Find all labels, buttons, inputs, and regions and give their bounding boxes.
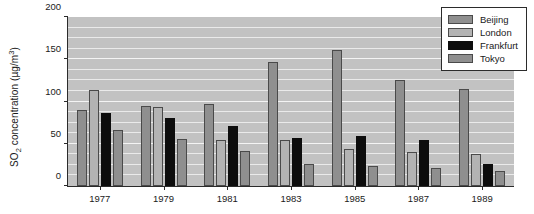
bar [240,151,250,186]
bar [280,140,290,186]
bar [268,62,278,186]
y-axis-tick [64,58,68,59]
bar [419,140,429,186]
x-axis-tick [164,186,165,190]
x-axis-tick-label: 1985 [344,193,365,204]
legend-item: Beijing [448,13,518,26]
bar [471,154,481,186]
bar [228,126,238,186]
legend-label: Frankfurt [480,40,518,51]
bar [483,164,493,186]
bar [204,104,214,186]
x-axis-tick-label: 1979 [153,193,174,204]
bar [344,149,354,186]
x-axis-tick [482,186,483,190]
bar [304,164,314,186]
legend-label: London [480,27,512,38]
gridline [68,164,514,165]
gridline [68,122,514,123]
bar [216,140,226,186]
y-axis-tick-label: 200 [45,1,61,12]
y-axis-tick [64,16,68,17]
y-axis-title: SO2 concentration (µg/m3) [4,0,26,214]
legend-item: Tokyo [448,52,518,65]
bar [141,106,151,186]
bar [153,107,163,186]
legend-label: Beijing [480,14,509,25]
bar [177,139,187,186]
bar [495,171,505,186]
legend-swatch-icon [448,15,473,24]
legend-item: London [448,26,518,39]
bar [459,89,469,186]
gridline [68,153,514,154]
gridline [68,132,514,133]
x-axis-tick [418,186,419,190]
x-axis-tick [291,186,292,190]
bar [368,166,378,186]
x-axis-tick-label: 1987 [408,193,429,204]
bar [165,118,175,186]
legend-swatch-icon [448,41,473,50]
bar [89,90,99,186]
legend-label: Tokyo [480,53,505,64]
gridline [68,90,514,91]
bar [431,168,441,186]
x-axis-tick-label: 1989 [472,193,493,204]
y-axis-tick [64,143,68,144]
legend-item: Frankfurt [448,39,518,52]
gridline [68,79,514,80]
y-axis-tick [64,101,68,102]
bar [395,80,405,186]
gridline [68,111,514,112]
gridline [68,101,514,102]
chart-figure: SO2 concentration (µg/m3) 050100150200 1… [0,0,534,214]
x-axis-tick [100,186,101,190]
gridline [68,143,514,144]
bar [332,50,342,186]
y-axis-title-text: SO2 concentration (µg/m3) [7,47,23,167]
y-axis-tick-label: 100 [45,85,61,96]
x-axis-tick [355,186,356,190]
legend-swatch-icon [448,28,473,37]
x-axis-tick-label: 1981 [217,193,238,204]
x-axis-tick [227,186,228,190]
y-axis-tick-label: 150 [45,43,61,54]
bar [292,138,302,186]
y-axis-tick-label: 50 [50,127,61,138]
x-axis-tick-label: 1977 [89,193,110,204]
bar [113,130,123,186]
bar [407,152,417,186]
x-axis-tick-label: 1983 [280,193,301,204]
bar [101,113,111,186]
bar [77,110,87,186]
legend-swatch-icon [448,54,473,63]
gridline [68,174,514,175]
bar [356,136,366,186]
y-axis-tick [64,185,68,186]
y-axis-tick-label: 0 [56,170,61,181]
legend: BeijingLondonFrankfurtTokyo [441,7,527,71]
